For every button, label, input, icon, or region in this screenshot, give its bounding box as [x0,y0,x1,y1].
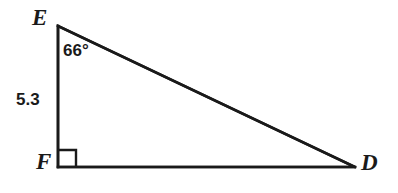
vertex-label-e: E [32,6,47,29]
vertex-label-d: D [361,151,378,174]
side-length-label-ef: 5.3 [16,91,40,108]
vertex-label-f: F [36,150,51,173]
triangle-hypotenuse-ed [58,26,355,167]
angle-measure-label-e: 66° [63,42,89,59]
right-angle-marker-icon [58,150,76,167]
geometry-figure: E F D 66° 5.3 [0,0,398,193]
triangle-drawing [0,0,398,193]
